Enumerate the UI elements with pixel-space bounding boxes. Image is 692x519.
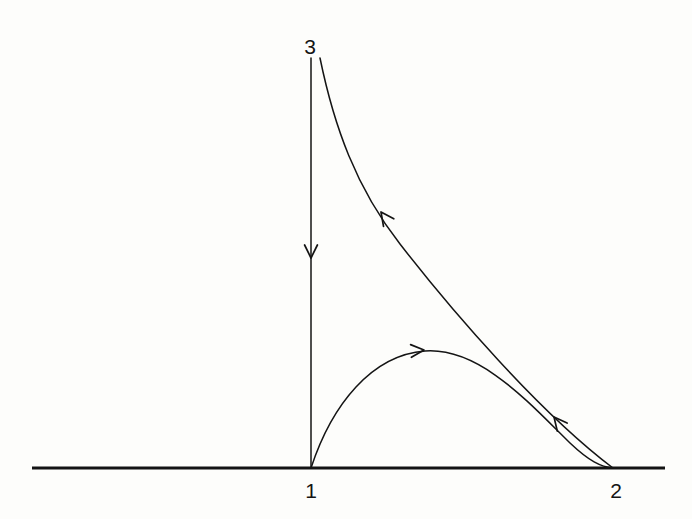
vertex-label-3: 3: [304, 36, 316, 57]
edge-3-to-1: [305, 58, 318, 468]
edge-2-to-3-path: [320, 58, 613, 468]
edge-1-to-2-path: [311, 351, 613, 468]
phase-portrait-svg: [0, 0, 692, 519]
arrow-up-left-upper-icon: [381, 212, 394, 226]
edge-1-to-2: [311, 345, 613, 468]
vertex-label-1: 1: [305, 480, 317, 501]
edge-2-to-3: [320, 58, 613, 468]
vertex-label-2: 2: [610, 480, 622, 501]
arrow-right-icon: [411, 345, 424, 358]
diagram-canvas: 3 1 2: [0, 0, 692, 519]
